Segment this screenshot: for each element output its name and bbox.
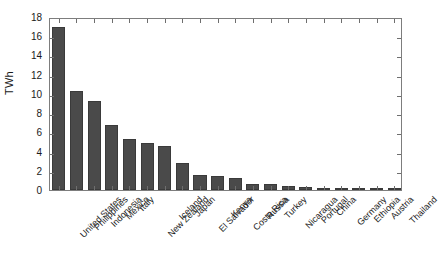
x-tick-mark [76,186,77,190]
x-tick-mark [359,19,360,23]
y-axis-tick-labels: 024681012141618 [22,0,42,262]
x-tick-mark [218,186,219,190]
y-tick-label: 0 [24,186,42,196]
x-tick-mark [288,186,289,190]
y-tick-label: 16 [24,32,42,42]
y-tick-mark [397,77,401,78]
y-tick-label: 10 [24,90,42,100]
x-tick-mark [324,19,325,23]
y-tick-mark [50,115,54,116]
y-tick-mark [50,134,54,135]
y-tick-mark [397,57,401,58]
y-tick-mark [397,96,401,97]
y-tick-mark [50,96,54,97]
y-tick-mark [397,115,401,116]
bar [70,91,83,190]
y-tick-mark [50,57,54,58]
x-tick-mark [59,19,60,23]
x-tick-mark [359,186,360,190]
x-tick-mark [253,19,254,23]
x-tick-mark [147,186,148,190]
bar [141,143,154,190]
x-tick-mark [200,19,201,23]
x-tick-mark [306,186,307,190]
x-tick-mark [147,19,148,23]
y-tick-label: 8 [24,109,42,119]
y-tick-label: 2 [24,167,42,177]
y-tick-mark [50,173,54,174]
x-tick-mark [165,186,166,190]
bar [105,125,118,190]
y-tick-label: 12 [24,71,42,81]
bar [88,101,101,190]
x-tick-mark [341,186,342,190]
y-tick-label: 4 [24,148,42,158]
x-tick-mark [165,19,166,23]
x-tick-mark [271,19,272,23]
x-tick-mark [94,186,95,190]
y-tick-mark [50,154,54,155]
y-tick-mark [397,38,401,39]
x-tick-mark [235,186,236,190]
bar-series [50,19,401,190]
y-tick-label: 18 [24,13,42,23]
y-tick-mark [397,173,401,174]
x-tick-mark [112,19,113,23]
x-tick-mark [324,186,325,190]
x-tick-mark [218,19,219,23]
x-tick-mark [394,19,395,23]
y-tick-label: 14 [24,51,42,61]
y-tick-label: 6 [24,128,42,138]
bar [123,139,136,190]
x-tick-mark [129,186,130,190]
x-tick-mark [182,186,183,190]
y-tick-mark [50,38,54,39]
x-tick-mark [235,19,236,23]
x-tick-mark [200,186,201,190]
y-tick-mark [397,134,401,135]
bar [158,146,171,190]
x-tick-mark [112,186,113,190]
x-tick-mark [306,19,307,23]
x-tick-mark [377,19,378,23]
x-tick-mark [377,186,378,190]
x-tick-mark [94,19,95,23]
x-tick-mark [182,19,183,23]
x-tick-mark [129,19,130,23]
x-tick-mark [76,19,77,23]
x-tick-mark [341,19,342,23]
plot-area [49,18,402,191]
x-tick-mark [271,186,272,190]
x-tick-mark [394,186,395,190]
x-tick-mark [59,186,60,190]
x-axis-tick-labels: United StatesPhilippinesIndonesiaMexicoI… [49,191,402,262]
y-tick-mark [50,77,54,78]
y-axis-title: TWh [3,81,15,95]
x-tick-mark [288,19,289,23]
bar [52,27,65,190]
y-tick-mark [397,154,401,155]
x-tick-mark [253,186,254,190]
